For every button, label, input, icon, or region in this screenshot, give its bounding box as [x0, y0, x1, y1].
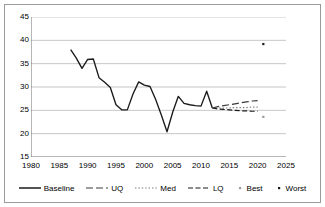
x-tick-label: 2020	[243, 161, 273, 170]
legend-item-baseline[interactable]: Baseline	[19, 184, 75, 193]
legend-item-best[interactable]: Best	[236, 184, 263, 193]
legend-label: Med	[160, 184, 176, 193]
legend-label: Best	[247, 184, 263, 193]
dashed-line-swatch	[188, 184, 210, 192]
y-tick-label: 15	[7, 153, 29, 161]
y-tick-label: 30	[7, 83, 29, 91]
legend-item-med[interactable]: Med	[135, 184, 176, 193]
legend-item-worst[interactable]: Worst	[275, 184, 307, 193]
x-tick-label: 1980	[16, 161, 46, 170]
y-tick-label: 40	[7, 36, 29, 44]
series-line-baseline	[71, 50, 213, 132]
plot-area	[31, 17, 286, 157]
x-tick-label: 2005	[158, 161, 188, 170]
y-tick-label: 45	[7, 13, 29, 21]
x-tick-label: 2000	[129, 161, 159, 170]
solid-line-swatch	[19, 184, 41, 192]
legend-item-uq[interactable]: UQ	[86, 184, 123, 193]
x-tick-label: 1990	[73, 161, 103, 170]
gridlines	[31, 17, 286, 134]
dark-dot-swatch	[275, 184, 283, 192]
y-tick-label: 25	[7, 106, 29, 114]
legend-item-lq[interactable]: LQ	[188, 184, 224, 193]
y-tick-label: 20	[7, 130, 29, 138]
dotted-line-swatch	[135, 184, 157, 192]
x-tick-label: 2010	[186, 161, 216, 170]
legend-label: UQ	[111, 184, 123, 193]
legend-label: LQ	[213, 184, 224, 193]
plot-svg	[31, 17, 286, 157]
long-dash-line-swatch	[86, 184, 108, 192]
light-dot-swatch	[236, 184, 244, 192]
legend-label: Worst	[286, 184, 307, 193]
y-axis-labels: 45403530252015	[5, 17, 29, 157]
legend-label: Baseline	[44, 184, 75, 193]
data-point-worst	[262, 43, 264, 45]
chart-legend: BaselineUQMedLQBestWorst	[10, 180, 315, 196]
data-point-best	[262, 116, 264, 118]
x-axis-labels: 1980198519901995200020052010201520202025	[31, 161, 286, 173]
x-tick-label: 2025	[271, 161, 301, 170]
x-tick-label: 1985	[44, 161, 74, 170]
y-tick-label: 35	[7, 60, 29, 68]
x-tick-label: 2015	[214, 161, 244, 170]
series-line-med	[212, 107, 257, 108]
x-tick-label: 1995	[101, 161, 131, 170]
chart-figure: 45403530252015 1980198519901995200020052…	[0, 0, 325, 207]
